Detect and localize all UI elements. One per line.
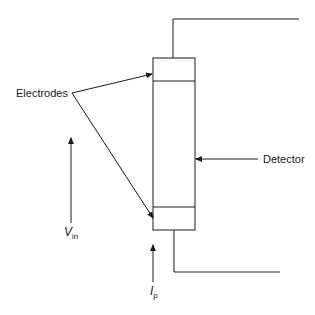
detector-body: [153, 58, 195, 230]
v-in-main: V: [64, 225, 72, 239]
electrodes-label: Electrodes: [16, 88, 68, 99]
i-p-label: Ip: [150, 285, 158, 300]
bottom-lead-wire: [174, 230, 280, 272]
detector-diagram: Electrodes Detector Vin Ip: [0, 0, 315, 315]
detector-label: Detector: [263, 154, 305, 165]
i-p-subscript: p: [153, 291, 157, 300]
v-in-label: Vin: [64, 226, 78, 241]
electrode-arrow-bottom: [72, 93, 153, 218]
electrode-arrow-top: [72, 74, 152, 93]
top-lead-wire: [173, 19, 299, 58]
v-in-subscript: in: [72, 232, 78, 241]
